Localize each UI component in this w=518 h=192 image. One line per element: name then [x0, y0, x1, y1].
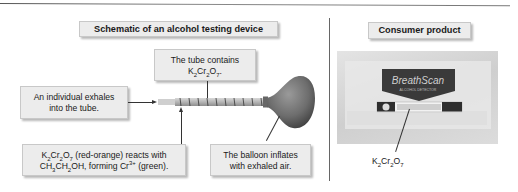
exhale-label-line2: into the tube.	[21, 103, 127, 114]
reaction-arrowhead-icon	[179, 107, 183, 112]
balloon-label-line1: The balloon inflates	[211, 150, 310, 161]
balloon-label: The balloon inflates with exhaled air.	[210, 144, 311, 176]
tube-label-line1: The tube contains	[155, 55, 255, 66]
balloon	[267, 76, 315, 128]
reaction-label-line1: K2Cr2O7 (red-orange) reacts with	[23, 150, 185, 161]
schematic-title-text: Schematic of an alcohol testing device	[94, 24, 263, 34]
top-rule	[0, 3, 510, 6]
svg-text:ALCOHOL DETECTOR: ALCOHOL DETECTOR	[400, 88, 437, 92]
schematic-title: Schematic of an alcohol testing device	[79, 21, 278, 37]
consumer-product-title-text: Consumer product	[378, 25, 460, 35]
panel-divider	[329, 18, 330, 181]
svg-text:BreathScan: BreathScan	[392, 75, 445, 86]
balloon-label-line2: with exhaled air.	[211, 161, 310, 172]
reaction-label: K2Cr2O7 (red-orange) reacts with CH3CH2O…	[22, 144, 186, 176]
exhale-label: An individual exhales into the tube.	[20, 86, 128, 119]
reaction-label-line2: CH3CH2OH, forming Cr3+ (green).	[23, 161, 185, 172]
exhale-label-line1: An individual exhales	[21, 92, 127, 103]
reaction-arrow-line	[181, 111, 182, 144]
breathscan-package: BreathScan ALCOHOL DETECTOR	[337, 51, 498, 144]
product-photo: BreathScan ALCOHOL DETECTOR	[337, 51, 498, 144]
product-formula-label: K2Cr2O7	[372, 156, 404, 166]
exhale-arrow-line	[128, 102, 154, 103]
consumer-product-title: Consumer product	[368, 22, 471, 39]
